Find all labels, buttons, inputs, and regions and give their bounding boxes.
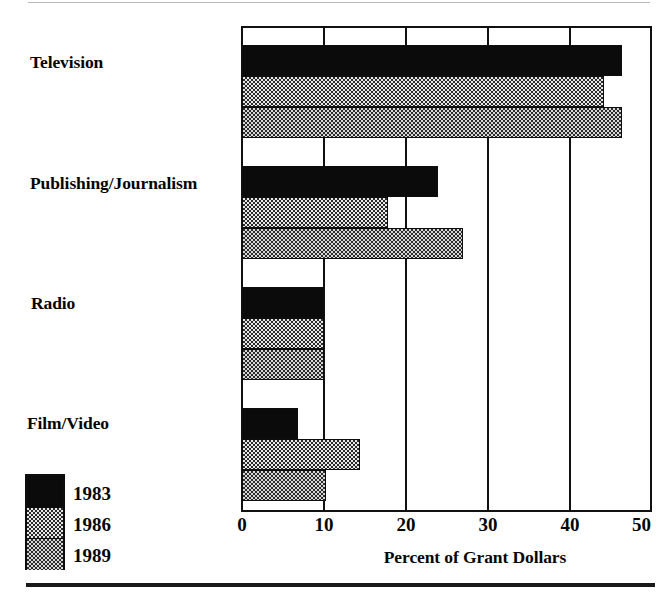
xtick-label-10: 10 bbox=[304, 515, 344, 534]
xtick-label-50: 50 bbox=[632, 515, 668, 534]
category-label-radio: Radio bbox=[31, 295, 75, 313]
xtick-label-30: 30 bbox=[468, 515, 508, 534]
category-label-film-video: Film/Video bbox=[27, 415, 109, 433]
bar-film-video-1983 bbox=[242, 408, 298, 439]
xtick-label-20: 20 bbox=[386, 515, 426, 534]
legend-swatch-1989 bbox=[27, 538, 63, 570]
bar-television-1986 bbox=[242, 76, 604, 107]
bar-film-video-1989 bbox=[242, 470, 326, 501]
xtick-label-40: 40 bbox=[550, 515, 590, 534]
bar-chart-figure: Television Publishing/Journalism Radio F… bbox=[0, 0, 668, 598]
plot-area bbox=[241, 26, 652, 512]
legend-label-1986: 1986 bbox=[73, 515, 111, 534]
legend-swatch-1983 bbox=[27, 476, 63, 508]
category-label-publishing-journalism: Publishing/Journalism bbox=[30, 175, 197, 193]
legend-swatch-stack bbox=[25, 474, 65, 570]
legend-label-1983: 1983 bbox=[73, 484, 111, 503]
xtick-label-0: 0 bbox=[222, 515, 262, 534]
top-divider-rule bbox=[28, 2, 650, 3]
bar-publishing-journalism-1986 bbox=[242, 197, 388, 228]
legend-swatch-1986 bbox=[27, 507, 63, 539]
bar-publishing-journalism-1983 bbox=[242, 166, 438, 197]
bar-television-1983 bbox=[242, 45, 622, 76]
bar-publishing-journalism-1989 bbox=[242, 228, 463, 259]
bar-radio-1983 bbox=[242, 287, 324, 318]
legend-label-1989: 1989 bbox=[73, 546, 111, 565]
x-axis-title: Percent of Grant Dollars bbox=[330, 549, 620, 567]
bottom-divider-rule bbox=[26, 583, 655, 587]
bar-film-video-1986 bbox=[242, 439, 360, 470]
bar-television-1989 bbox=[242, 107, 622, 138]
category-label-television: Television bbox=[30, 54, 103, 72]
bar-radio-1986 bbox=[242, 318, 324, 349]
bar-radio-1989 bbox=[242, 349, 324, 380]
